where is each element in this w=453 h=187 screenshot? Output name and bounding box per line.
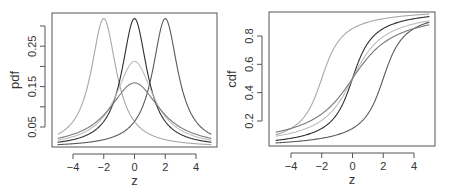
cdf-y-axis: 0.20.40.60.8 (243, 28, 262, 128)
x-tick-label: −2 (97, 161, 110, 173)
y-tick-label: 0.8 (243, 28, 255, 43)
cdf-y-axis-label: cdf (224, 70, 239, 88)
cdf-x-axis: −4−2024 (285, 153, 417, 172)
y-tick-label: 0.2 (243, 113, 255, 128)
pdf-panel: −4−2024 0.050.150.25 z pdf (7, 13, 217, 187)
pdf-x-axis-label: z (131, 173, 138, 187)
curve-location-0-scale-1-5 (58, 61, 212, 140)
figure: −4−2024 0.050.150.25 z pdf −4−2024 0.20.… (0, 0, 453, 187)
curve-location-2-scale-1 (58, 19, 212, 145)
pdf-y-axis: 0.050.150.25 (26, 26, 45, 138)
pdf-plot-frame (52, 13, 217, 147)
y-tick-label: 0.15 (26, 76, 38, 97)
pdf-y-axis-label: pdf (7, 71, 22, 89)
y-tick-label: 0.4 (243, 85, 255, 100)
y-tick-label: 0.05 (26, 116, 38, 137)
x-tick-label: 0 (349, 160, 355, 172)
curve-location-0-scale-2 (58, 83, 212, 138)
x-tick-label: 4 (193, 161, 199, 173)
y-tick-label: 0.25 (26, 35, 38, 56)
curve-location-2-scale-1 (58, 19, 212, 145)
cdf-curves (276, 14, 430, 143)
curve-location-2-scale-1 (276, 14, 430, 135)
x-tick-label: −4 (67, 161, 80, 173)
x-tick-label: 0 (131, 161, 137, 173)
curve-location-0-scale-2 (276, 25, 430, 132)
curve-location-2-scale-1 (276, 22, 430, 143)
x-tick-label: −2 (315, 160, 328, 172)
curve-location-0-scale-1 (58, 19, 212, 143)
x-tick-label: 4 (411, 160, 417, 172)
pdf-x-axis: −4−2024 (67, 154, 199, 173)
cdf-panel: −4−2024 0.20.40.60.8 z cdf (224, 12, 435, 187)
x-tick-label: 2 (162, 161, 168, 173)
x-tick-label: −4 (285, 160, 298, 172)
pdf-curves (58, 19, 212, 145)
y-tick-label: 0.6 (243, 57, 255, 72)
cdf-x-axis-label: z (349, 172, 356, 187)
x-tick-label: 2 (380, 160, 386, 172)
